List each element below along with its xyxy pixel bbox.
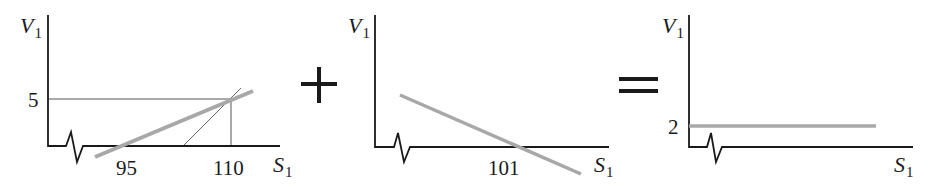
y-axis — [375, 15, 609, 162]
y-axis-label: V1 — [662, 13, 684, 41]
y-tick-5: 5 — [28, 88, 39, 112]
payoff-line — [95, 91, 253, 157]
x-tick-101: 101 — [488, 156, 520, 180]
y-axis-label: V1 — [348, 13, 370, 41]
equals-operator — [619, 77, 658, 93]
x-tick-95: 95 — [116, 156, 137, 180]
payoff-diagram: V1 5 95 110 S1 V1 101 S1 V1 2 S1 — [0, 0, 935, 189]
panel-1: V1 5 95 110 S1 — [20, 13, 293, 180]
y-axis — [48, 15, 280, 162]
y-axis — [689, 15, 913, 162]
y-axis-label: V1 — [20, 13, 42, 41]
panel-3: V1 2 S1 — [662, 13, 914, 180]
panel-2: V1 101 S1 — [348, 13, 614, 180]
plus-operator — [301, 67, 337, 103]
x-axis-label: S1 — [594, 152, 614, 180]
x-axis-label: S1 — [273, 152, 293, 180]
y-tick-2: 2 — [668, 115, 679, 139]
x-axis-label: S1 — [894, 152, 914, 180]
x-tick-110: 110 — [213, 156, 244, 180]
